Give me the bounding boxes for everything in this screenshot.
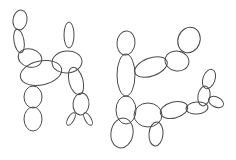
balloon-segment [72,92,90,115]
balloon-segment [64,22,74,48]
balloon-segment [24,107,42,131]
balloon-segment [132,53,170,82]
balloon-segment [16,46,44,70]
balloon-segment [207,94,226,110]
balloon-segment [24,86,42,108]
left-figure [11,9,94,131]
balloon-segment [116,96,136,124]
balloon-segment [117,54,135,96]
right-figure [109,24,226,150]
balloon-segment [11,9,28,31]
balloon-segment [116,30,136,55]
balloon-segment [134,103,162,127]
balloon-segment [186,101,209,115]
balloon-drawing [0,0,236,160]
balloon-segment [82,111,94,126]
balloon-segment [65,111,77,126]
balloon-segment [158,99,189,122]
